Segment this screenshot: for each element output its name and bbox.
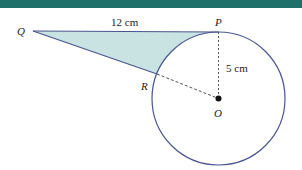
label-q: Q <box>17 25 25 37</box>
label-op-length: 5 cm <box>226 62 248 74</box>
label-o: O <box>214 107 222 119</box>
geometry-diagram: Q P R O 12 cm 5 cm <box>0 0 302 170</box>
label-r: R <box>140 80 148 92</box>
label-qp-length: 12 cm <box>111 16 139 28</box>
center-point-o <box>216 96 222 102</box>
label-p: P <box>214 16 222 28</box>
radius-or <box>157 74 219 99</box>
